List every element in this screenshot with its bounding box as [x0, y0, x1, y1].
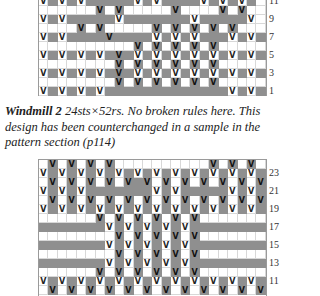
main-cell — [247, 196, 256, 205]
main-cell — [200, 160, 209, 169]
slip-stitch-symbol: V — [172, 78, 178, 87]
main-cell — [105, 42, 114, 51]
slip-stitch-cell: V — [181, 259, 190, 268]
main-cell — [219, 214, 228, 223]
main-cell — [228, 6, 237, 15]
main-cell — [39, 286, 48, 295]
slip-stitch-symbol: V — [40, 187, 46, 196]
slip-stitch-symbol: V — [135, 42, 141, 51]
slip-stitch-cell: V — [96, 51, 105, 60]
slip-stitch-cell: V — [247, 15, 256, 24]
main-cell — [238, 268, 247, 277]
main-cell — [134, 286, 143, 295]
contrast-cell — [48, 169, 57, 178]
main-cell — [77, 250, 86, 259]
main-cell — [200, 24, 209, 33]
slip-stitch-symbol: V — [78, 205, 84, 214]
main-cell — [209, 232, 218, 241]
main-cell — [152, 160, 161, 169]
slip-stitch-symbol: V — [116, 169, 122, 178]
main-cell — [209, 268, 218, 277]
slip-stitch-symbol: V — [135, 169, 141, 178]
slip-stitch-symbol: V — [154, 268, 160, 277]
main-cell — [219, 78, 228, 87]
main-cell — [181, 214, 190, 223]
contrast-cell — [162, 277, 171, 286]
contrast-cell — [228, 15, 237, 24]
main-cell — [171, 196, 180, 205]
contrast-cell — [86, 223, 95, 232]
main-cell — [58, 214, 67, 223]
main-cell — [190, 160, 199, 169]
main-cell — [181, 6, 190, 15]
main-cell — [162, 214, 171, 223]
contrast-cell — [209, 87, 218, 96]
windmill-2-chart: VVVVVVVVVVVVVVVVVVVVVVVVVVVVVVVVVVVVVVVV… — [38, 159, 267, 296]
main-cell — [77, 232, 86, 241]
contrast-cell — [219, 51, 228, 60]
chart-row: VVVVVVVVVVVV — [39, 169, 266, 178]
slip-stitch-symbol: V — [239, 6, 245, 15]
slip-stitch-cell: V — [143, 196, 152, 205]
slip-stitch-cell: V — [219, 6, 228, 15]
slip-stitch-cell: V — [39, 51, 48, 60]
slip-stitch-symbol: V — [116, 250, 122, 259]
contrast-cell — [134, 15, 143, 24]
main-cell — [247, 214, 256, 223]
main-cell — [256, 160, 265, 169]
main-cell — [247, 78, 256, 87]
contrast-cell — [48, 51, 57, 60]
main-cell — [238, 78, 247, 87]
contrast-cell — [67, 33, 76, 42]
main-cell — [209, 178, 218, 187]
main-cell — [96, 286, 105, 295]
slip-stitch-cell: V — [152, 60, 161, 69]
contrast-cell — [200, 205, 209, 214]
slip-stitch-symbol: V — [220, 196, 226, 205]
slip-stitch-symbol: V — [40, 51, 46, 60]
contrast-cell — [200, 15, 209, 24]
row-number-label: 21 — [269, 186, 279, 196]
row-number-label: 23 — [269, 168, 279, 178]
top-chart: VVVVVVVVVVVVVVVVVVVVVVVVVVVVVVVVVVVVVVVV… — [38, 0, 267, 96]
slip-stitch-cell: V — [152, 268, 161, 277]
slip-stitch-cell: V — [96, 169, 105, 178]
main-cell — [200, 6, 209, 15]
contrast-cell — [48, 187, 57, 196]
main-cell — [228, 250, 237, 259]
contrast-cell — [134, 241, 143, 250]
slip-stitch-symbol: V — [163, 223, 169, 232]
contrast-cell — [48, 223, 57, 232]
slip-stitch-symbol: V — [229, 187, 235, 196]
slip-stitch-cell: V — [171, 78, 180, 87]
slip-stitch-symbol: V — [116, 78, 122, 87]
contrast-cell — [162, 205, 171, 214]
slip-stitch-cell: V — [190, 24, 199, 33]
contrast-cell — [162, 169, 171, 178]
contrast-cell — [48, 205, 57, 214]
slip-stitch-cell: V — [219, 196, 228, 205]
contrast-cell — [162, 69, 171, 78]
contrast-cell — [219, 69, 228, 78]
slip-stitch-symbol: V — [97, 6, 103, 15]
contrast-cell — [247, 223, 256, 232]
main-cell — [181, 268, 190, 277]
slip-stitch-cell: V — [190, 205, 199, 214]
slip-stitch-symbol: V — [248, 87, 254, 96]
slip-stitch-cell: V — [152, 277, 161, 286]
contrast-cell — [209, 259, 218, 268]
slip-stitch-cell: V — [58, 187, 67, 196]
slip-stitch-cell: V — [190, 69, 199, 78]
slip-stitch-cell: V — [58, 87, 67, 96]
slip-stitch-cell: V — [77, 87, 86, 96]
row-number-label: 7 — [269, 32, 274, 42]
slip-stitch-cell: V — [247, 277, 256, 286]
main-cell — [181, 24, 190, 33]
contrast-cell — [143, 205, 152, 214]
slip-stitch-cell: V — [134, 277, 143, 286]
main-cell — [58, 232, 67, 241]
slip-stitch-symbol: V — [248, 33, 254, 42]
slip-stitch-cell: V — [209, 160, 218, 169]
slip-stitch-cell: V — [228, 69, 237, 78]
slip-stitch-cell: V — [152, 250, 161, 259]
